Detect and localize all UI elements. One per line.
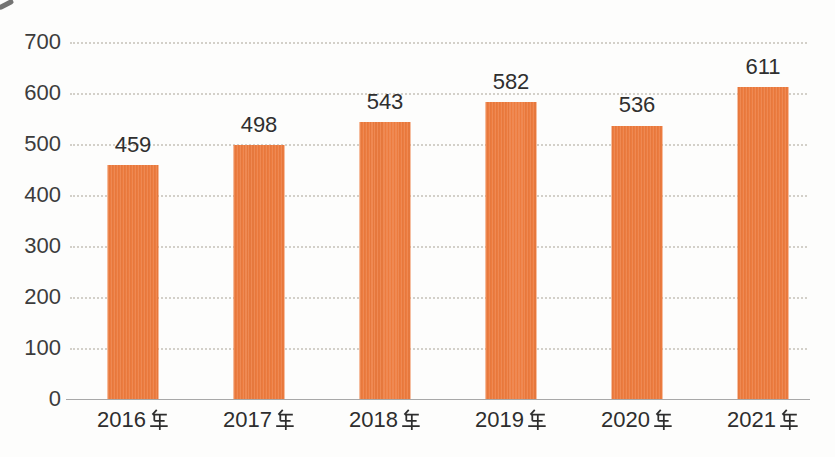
plot-area: 0100200300400500600700 45920164982017543… — [70, 42, 826, 399]
category-label: 2020 — [574, 408, 700, 432]
bar — [738, 87, 789, 399]
category-label: 2016 — [70, 408, 196, 432]
value-label: 611 — [700, 54, 826, 79]
y-tick-label-500: 500 — [24, 132, 61, 156]
bar-group-2021: 6112021 — [700, 42, 826, 399]
bar-group-2016: 4592016 — [70, 42, 196, 399]
category-label: 2018 — [322, 408, 448, 432]
bar — [234, 145, 285, 399]
y-tick-label-400: 400 — [24, 183, 61, 207]
bar-group-2020: 5362020 — [574, 42, 700, 399]
category-label: 2021 — [700, 408, 826, 432]
year-character-glyph — [652, 409, 673, 430]
value-label: 536 — [574, 92, 700, 117]
year-character-glyph — [778, 409, 799, 430]
year-character-glyph — [274, 409, 295, 430]
category-label: 2019 — [448, 408, 574, 432]
year-character-glyph — [526, 409, 547, 430]
x-axis-baseline — [66, 399, 810, 400]
y-tick-label-100: 100 — [24, 336, 61, 360]
bar — [612, 126, 663, 399]
bar — [108, 165, 159, 399]
value-label: 459 — [70, 132, 196, 157]
scan-artifact-mark — [0, 0, 14, 10]
y-tick-label-700: 700 — [24, 30, 61, 54]
y-tick-label-300: 300 — [24, 234, 61, 258]
bar — [486, 102, 537, 399]
value-label: 498 — [196, 112, 322, 137]
year-character-glyph — [400, 409, 421, 430]
category-label: 2017 — [196, 408, 322, 432]
bars: 4592016498201754320185822019536202061120… — [70, 42, 826, 399]
value-label: 582 — [448, 69, 574, 94]
y-tick-label-0: 0 — [49, 387, 61, 411]
bar-chart: 0100200300400500600700 45920164982017543… — [0, 0, 835, 457]
bar-group-2019: 5822019 — [448, 42, 574, 399]
y-tick-label-600: 600 — [24, 81, 61, 105]
y-tick-label-200: 200 — [24, 285, 61, 309]
year-character-glyph — [148, 409, 169, 430]
bar-group-2017: 4982017 — [196, 42, 322, 399]
value-label: 543 — [322, 89, 448, 114]
bar — [360, 122, 411, 399]
bar-group-2018: 5432018 — [322, 42, 448, 399]
